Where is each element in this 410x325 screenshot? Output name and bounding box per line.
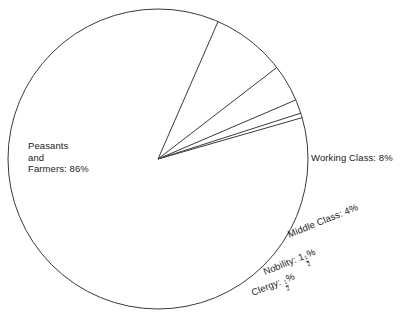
pie-radius-working-class <box>158 22 218 159</box>
peasants-label-line1: Peasants <box>28 140 89 152</box>
slice-label-working-class: Working Class: 8% <box>311 152 393 164</box>
pie-radius-middle-class <box>158 67 277 159</box>
pie-radius-peasants-and-farmers <box>158 118 302 159</box>
pie-slice-boundaries <box>158 22 302 159</box>
pie-chart: Peasants and Farmers: 86% Working Class:… <box>0 0 410 325</box>
peasants-label-line2: and <box>28 152 89 164</box>
clergy-fraction-denominator: 2 <box>285 285 291 292</box>
nobility-fraction-denominator: 2 <box>306 260 312 267</box>
peasants-label-line3: Farmers: 86% <box>28 163 89 175</box>
pie-radius-clergy <box>158 113 301 159</box>
pie-radius-nobility <box>158 100 296 159</box>
slice-label-peasants: Peasants and Farmers: 86% <box>28 140 89 175</box>
